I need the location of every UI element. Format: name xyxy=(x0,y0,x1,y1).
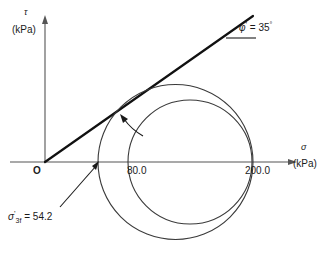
sigma3f-equals-value: = 54.2 xyxy=(21,211,52,222)
sigma-axis-unit-label: (kPa) xyxy=(293,159,317,169)
degree-icon: ° xyxy=(270,21,273,28)
origin-label: O xyxy=(33,166,41,176)
sigma3f-leader-arrow xyxy=(60,161,99,207)
tick-label-right: 200.0 xyxy=(245,166,270,176)
sigma-axis-label: σ xyxy=(301,143,306,152)
envelope-pointer-arrow xyxy=(120,114,143,136)
sigma3f-annotation: σ'3f = 54.2 xyxy=(8,210,52,224)
tau-axis-unit-label: (kPa) xyxy=(12,25,36,35)
tau-axis-label: τ xyxy=(24,8,27,17)
friction-angle-annotation: φ' = 35° xyxy=(239,21,272,33)
tick-label-inner-left: 80.0 xyxy=(127,166,146,176)
tau-axis xyxy=(42,15,48,162)
phi-equals-value: = 35 xyxy=(247,22,270,33)
